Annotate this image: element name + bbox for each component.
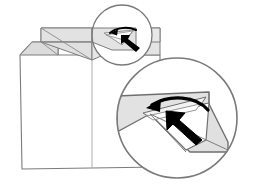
magnifier-large bbox=[117, 58, 237, 178]
collar-left-flap bbox=[41, 28, 92, 42]
origami-instruction-illustration bbox=[0, 0, 253, 188]
figure-canvas bbox=[0, 0, 253, 188]
magnifier-small bbox=[92, 5, 152, 65]
